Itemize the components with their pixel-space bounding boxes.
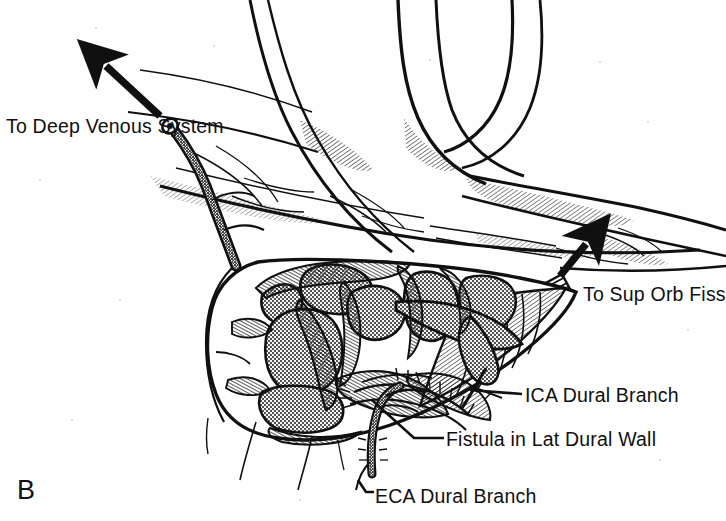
label-to-sup-orb-fiss: To Sup Orb Fiss: [583, 285, 726, 305]
panel-letter: B: [17, 477, 35, 504]
anatomical-figure-panel-b: To Deep Venous System To Sup Orb Fiss IC…: [0, 0, 726, 521]
label-eca-dural-branch: ECA Dural Branch: [375, 487, 536, 507]
label-fistula-in-lat-dural-wall: Fistula in Lat Dural Wall: [446, 430, 656, 450]
label-to-deep-venous-system: To Deep Venous System: [6, 117, 224, 137]
label-ica-dural-branch: ICA Dural Branch: [525, 386, 679, 406]
